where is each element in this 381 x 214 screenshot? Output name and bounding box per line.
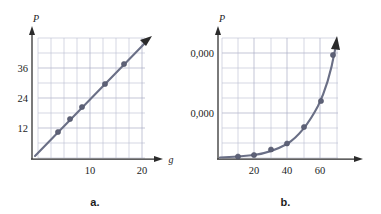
data-point [330, 52, 335, 57]
chart-a-ytick-36: 36 [18, 63, 29, 74]
chart-panel-b: 20,000 10,000 20 40 60 P b. [190, 0, 381, 214]
chart-panel-a: 36 24 12 10 20 P g a. [0, 0, 190, 214]
chart-b-ytick-10000: 10,000 [190, 108, 214, 119]
y-axis-arrow-icon [29, 26, 35, 35]
y-axis-arrow-icon [215, 26, 221, 35]
chart-b-xtick-40: 40 [282, 165, 293, 176]
chart-a-ytick-24: 24 [18, 93, 29, 104]
x-axis-arrow-icon [354, 156, 363, 162]
chart-a-xtick-20: 20 [137, 165, 148, 176]
chart-a-xtick-10: 10 [85, 165, 96, 176]
data-point [235, 154, 240, 159]
x-axis-arrow-icon [154, 156, 163, 162]
data-point [251, 152, 256, 157]
data-point [318, 98, 323, 103]
chart-a-ytick-12: 12 [18, 123, 29, 134]
chart-b-svg: 20,000 10,000 20 40 60 P [190, 0, 381, 214]
data-point [67, 116, 72, 121]
chart-b-xtick-20: 20 [249, 165, 260, 176]
panel-a-caption: a. [0, 196, 190, 208]
data-point [284, 141, 289, 146]
data-point [301, 124, 306, 129]
chart-b-xtick-60: 60 [315, 165, 326, 176]
figure-container: 36 24 12 10 20 P g a. [0, 0, 381, 214]
chart-a-y-axis-label: P [32, 13, 39, 24]
chart-b-y-axis-label: P [218, 13, 225, 24]
data-point [268, 147, 273, 152]
chart-a-x-axis-label: g [169, 154, 174, 165]
data-point [102, 81, 107, 86]
data-point [79, 104, 84, 109]
panel-b-caption: b. [190, 196, 381, 208]
chart-a-svg: 36 24 12 10 20 P g [0, 0, 190, 214]
chart-a-series [35, 36, 152, 156]
chart-b-ytick-20000: 20,000 [190, 48, 214, 59]
data-point [55, 129, 60, 134]
data-point [121, 61, 126, 66]
